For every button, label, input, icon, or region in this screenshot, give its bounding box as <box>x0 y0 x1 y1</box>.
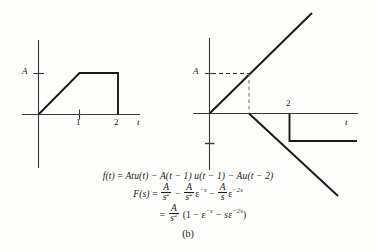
equation-3-den-exponent: 2 <box>174 211 177 218</box>
equation-line-1: f(t) = Atu(t) − A(t − 1) u(t − 1) − Au(t… <box>0 172 376 182</box>
equation-2-term1-den-exponent: 2 <box>167 190 170 197</box>
right-plot-y-axis-label: A <box>193 66 199 76</box>
equation-2-term2-denominator: s2 <box>184 193 194 203</box>
right-plot-rising-ramp <box>210 13 313 114</box>
equation-2-term2-den-exponent: 2 <box>189 190 192 197</box>
equation-3-close-paren: ) <box>243 209 246 219</box>
equation-2-operator-2: − <box>209 188 215 198</box>
left-plot-x-tick-label-1: 1 <box>76 117 81 127</box>
equation-2-operator-1: − <box>175 188 181 198</box>
equation-line-3: = A s2 (1 − ε−s − sε−2s) <box>0 204 376 224</box>
right-plot-x-tick-label-2: 2 <box>286 98 291 108</box>
equation-3-exp1-superscript: −s <box>206 207 213 214</box>
right-plot-group <box>193 13 358 196</box>
equation-2-term3-denominator: s <box>218 193 227 203</box>
left-plot-x-axis-label: t <box>137 117 140 127</box>
equation-3-middle: − s <box>213 209 228 219</box>
figure-container: A 1 2 t A 2 t f(t) = Atu(t) − A(t − 1) u… <box>0 0 376 252</box>
left-plot-waveform <box>39 73 119 115</box>
equation-3-equals: = <box>160 209 166 219</box>
equation-1-lhs: f(t) <box>103 171 115 181</box>
equation-3-fraction: A s2 <box>169 204 179 224</box>
figure-caption: (b) <box>0 228 376 239</box>
equation-2-lhs: F(s) <box>133 188 149 198</box>
equation-3-denominator: s2 <box>169 214 179 224</box>
equation-2-term3-fraction: A s <box>218 183 227 203</box>
equation-2-term1-fraction: A s2 <box>161 183 171 203</box>
left-plot-y-axis-label: A <box>22 66 28 76</box>
equation-2-equals: = <box>152 188 158 198</box>
equation-1-rhs: Atu(t) − A(t − 1) u(t − 1) − Au(t − 2) <box>125 171 273 181</box>
equation-block: f(t) = Atu(t) − A(t − 1) u(t − 1) − Au(t… <box>0 172 376 224</box>
right-plot-x-axis-label: t <box>345 117 348 127</box>
equation-line-2: F(s) = A s2 − A s2 ε−s − A s ε−2s <box>0 183 376 203</box>
left-plot-group <box>22 40 140 168</box>
equation-2-term3-exp-superscript: −2s <box>232 186 243 193</box>
left-plot-x-tick-label-2: 2 <box>114 117 119 127</box>
equation-2-term1-denominator: s2 <box>161 193 171 203</box>
equation-1-equals: = <box>117 171 123 181</box>
equation-2-term2-fraction: A s2 <box>184 183 194 203</box>
equation-3-open-paren: (1 − <box>183 209 202 219</box>
equation-3-exp2-superscript: −2s <box>232 207 243 214</box>
equation-2-term2-exp-superscript: −s <box>199 186 206 193</box>
